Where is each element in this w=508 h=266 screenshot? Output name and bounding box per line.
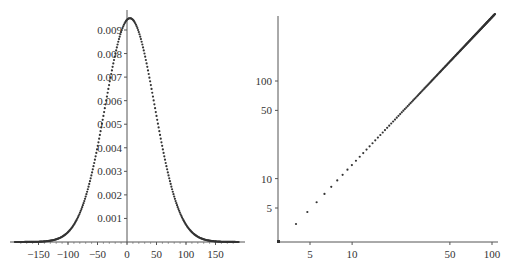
curve-point [153,99,155,101]
curve-point [95,152,97,154]
curve-point [162,152,164,154]
curve-point [144,56,146,58]
y-tick-label: 5 [267,202,273,214]
curve-point [88,183,90,185]
curve-point [155,115,157,117]
scatter-point [384,129,386,131]
scatter-point [388,125,390,127]
scatter-point [306,211,308,213]
curve-point [80,208,82,210]
right-x-ticks: 51050100 [307,242,501,260]
curve-point [96,148,98,150]
curve-point [165,162,167,164]
curve-point [84,198,86,200]
left-chart-gaussian: −150−100−50050100150 0.0010.0020.0030.00… [10,10,245,260]
y-tick-label: 0.009 [97,24,122,36]
scatter-point [494,13,496,15]
curve-point [163,155,165,157]
curve-point [91,171,93,173]
scatter-point [342,174,344,176]
curve-point [167,174,169,176]
curve-point [92,168,94,170]
x-tick-label: 50 [151,248,163,260]
curve-point [98,138,100,140]
scatter-point [392,120,394,122]
curve-point [114,56,116,58]
curve-point [82,202,84,204]
curve-point [152,95,154,97]
curve-point [97,141,99,143]
curve-point [106,95,108,97]
curve-point [173,195,175,197]
curve-point [95,155,97,157]
curve-point [151,92,153,94]
curve-point [172,191,174,193]
curve-point [143,52,145,54]
scatter-point [397,115,399,117]
curve-point [89,180,91,182]
left-x-ticks: −150−100−50050100150 [21,242,233,260]
curve-point [105,99,107,101]
curve-point [141,41,143,43]
curve-point [175,200,177,202]
curve-point [166,168,168,170]
y-tick-label: 0.003 [97,165,122,177]
curve-point [110,73,112,75]
y-tick-label: 0.008 [97,48,122,60]
curve-point [149,80,151,82]
y-tick-label: 0.004 [97,142,122,154]
scatter-point [371,142,373,144]
curve-point [238,241,240,243]
curve-point [97,145,99,147]
curve-point [104,107,106,109]
curve-point [137,29,139,31]
curve-point [162,148,164,150]
curve-point [117,41,119,43]
curve-point [120,31,122,33]
curve-point [158,130,160,132]
scatter-point [355,160,357,162]
curve-point [103,111,105,113]
curve-point [112,66,114,68]
scatter-point [365,148,367,150]
right-chart-loglog: 51050100 51050100 [256,13,501,260]
curve-point [160,141,162,143]
curve-point [114,52,116,54]
y-tick-label: 0.001 [97,212,122,224]
curve-point [86,191,88,193]
curve-point [112,62,114,64]
curve-point [102,119,104,121]
x-tick-label: 50 [444,248,456,260]
curve-point [104,103,106,105]
curve-point [148,73,150,75]
scatter-point [362,152,364,154]
scatter-point [374,139,376,141]
y-tick-label: 10 [261,173,273,185]
curve-point [145,59,147,61]
y-tick-label: 100 [256,75,273,87]
curve-point [119,33,121,35]
scatter-point [399,113,401,115]
curve-point [143,49,145,51]
scatter-point [390,122,392,124]
curve-point [99,130,101,132]
scatter-point [359,156,361,158]
curve-point [109,77,111,79]
scatter-point [379,134,381,136]
curve-point [108,84,110,86]
curve-point [111,69,113,71]
curve-point [172,193,174,195]
curve-point [155,111,157,113]
curve-point [170,186,172,188]
y-tick-label: 0.002 [97,189,122,201]
curve-point [169,180,171,182]
x-tick-label: −50 [89,248,107,260]
scatter-point [316,201,318,203]
x-tick-label: 100 [178,248,195,260]
curve-point [154,107,156,109]
curve-point [165,165,167,167]
curve-point [171,188,173,190]
curve-point [118,38,120,40]
curve-point [142,46,144,48]
curve-point [148,77,150,79]
